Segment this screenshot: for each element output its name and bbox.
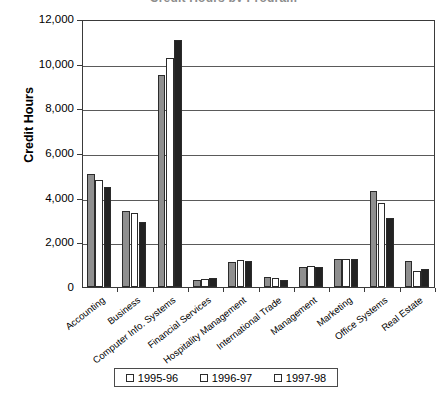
y-axis-tick-label: 12,000	[12, 14, 74, 25]
x-axis-tick	[364, 288, 365, 292]
bar	[95, 180, 103, 287]
bar	[131, 213, 139, 287]
bar	[139, 222, 147, 287]
bar	[193, 280, 201, 287]
bar	[315, 267, 323, 287]
legend-item: 1995-96	[126, 372, 178, 384]
legend-swatch-icon	[200, 374, 208, 382]
legend-item: 1997-98	[274, 372, 326, 384]
bar	[280, 280, 288, 287]
x-axis-tick	[153, 288, 154, 292]
bar	[351, 259, 359, 287]
bar	[334, 259, 342, 287]
gridline	[83, 200, 434, 201]
x-axis-tick	[117, 288, 118, 292]
bar	[174, 40, 182, 287]
y-axis-tick-label: 0	[12, 282, 74, 293]
bar	[201, 279, 209, 287]
y-axis-title: Credit Hours	[22, 60, 36, 190]
legend-item: 1996-97	[200, 372, 252, 384]
bar	[122, 211, 130, 287]
bar	[370, 191, 378, 287]
legend-swatch-icon	[274, 374, 282, 382]
bar	[421, 269, 429, 287]
gridline	[83, 155, 434, 156]
bar	[237, 260, 245, 287]
legend-label: 1996-97	[212, 372, 252, 384]
x-axis-tick	[329, 288, 330, 292]
plot-area	[82, 20, 435, 288]
gridline	[83, 66, 434, 67]
x-axis-tick	[435, 288, 436, 292]
bar	[272, 278, 280, 287]
bar	[228, 262, 236, 287]
x-axis-tick	[259, 288, 260, 292]
bar	[378, 203, 386, 287]
x-axis-tick	[188, 288, 189, 292]
bar	[386, 218, 394, 287]
bar	[209, 278, 217, 287]
legend-label: 1995-96	[138, 372, 178, 384]
legend-label: 1997-98	[286, 372, 326, 384]
bar	[307, 266, 315, 287]
chart-title: Credit Hours by Program	[0, 0, 447, 2]
y-axis-tick-label: 2,000	[12, 237, 74, 248]
bar	[342, 259, 350, 287]
bar	[264, 277, 272, 287]
bar	[87, 174, 95, 287]
bar	[405, 261, 413, 287]
bar	[166, 58, 174, 287]
gridline	[83, 110, 434, 111]
bar	[299, 267, 307, 287]
x-axis-tick	[223, 288, 224, 292]
x-axis-tick	[294, 288, 295, 292]
bar-chart: Credit Hours by Program Credit Hours 02,…	[0, 0, 447, 395]
legend-swatch-icon	[126, 374, 134, 382]
y-axis-tick-label: 4,000	[12, 193, 74, 204]
bar	[413, 271, 421, 287]
bar	[245, 261, 253, 287]
chart-legend: 1995-96 1996-97 1997-98	[114, 368, 338, 387]
x-axis-tick	[400, 288, 401, 292]
bar	[104, 187, 112, 288]
bar	[158, 75, 166, 287]
